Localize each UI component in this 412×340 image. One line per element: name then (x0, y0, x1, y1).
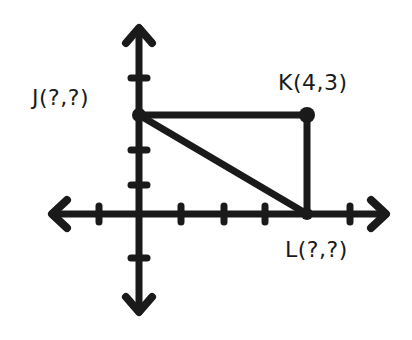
label-point-l: L(?,?) (285, 237, 348, 262)
y-axis (126, 28, 152, 312)
segment-jl (139, 115, 307, 214)
label-point-k: K(4,3) (278, 70, 348, 95)
point-l (301, 208, 313, 220)
point-k (299, 107, 315, 123)
coordinate-plane (0, 0, 412, 340)
label-point-j: J(?,?) (32, 85, 89, 110)
point-j (132, 108, 146, 122)
triangle-jkl (139, 115, 307, 214)
